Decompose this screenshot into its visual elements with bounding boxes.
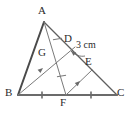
geometry-figure: A B C D E F G 3 cm [0, 0, 127, 115]
point-label-b: B [5, 87, 12, 98]
point-label-f: F [60, 97, 66, 108]
point-label-c: C [117, 87, 124, 98]
arrow-marker-bd [38, 66, 45, 73]
point-label-g: G [38, 47, 46, 58]
point-label-e: E [85, 56, 92, 67]
point-label-a: A [38, 5, 46, 16]
length-label-de: 3 cm [76, 40, 96, 50]
point-label-d: D [64, 33, 72, 44]
